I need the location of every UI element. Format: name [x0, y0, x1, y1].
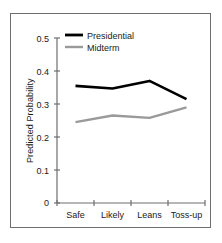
plot-area [0, 0, 222, 243]
series-line-presidential [76, 81, 187, 99]
series-line-midterm [76, 107, 187, 122]
figure-panel: Predicted Probability 0.5 0.4 0.3 0.2 0.… [0, 0, 222, 243]
